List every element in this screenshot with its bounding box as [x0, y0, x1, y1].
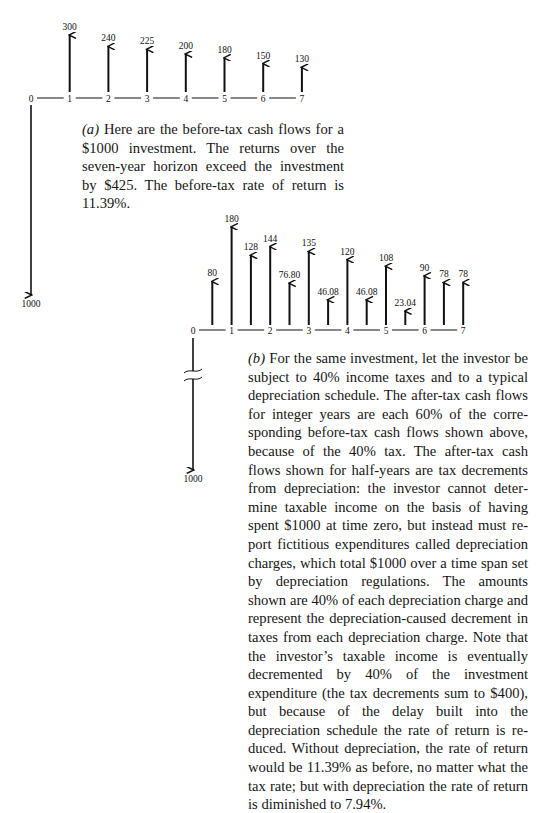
timeline-label: 7: [461, 326, 466, 336]
cash-flow-value: 46.08: [317, 287, 339, 297]
cash-flow-value: 240: [101, 33, 116, 43]
cash-flow-value: 90: [420, 263, 430, 273]
timeline-label: 2: [106, 94, 111, 104]
timeline-label: 3: [145, 94, 150, 104]
caption-b: (b) For the same investment, let the inv…: [248, 349, 528, 813]
caption-a-part-label: (a): [82, 121, 99, 137]
cash-flow-value: 78: [458, 269, 468, 279]
timeline-label: 0: [191, 326, 196, 336]
cash-flow-value: 150: [256, 51, 271, 61]
cash-flow-value: 80: [208, 268, 218, 278]
investment-value: 1000: [22, 299, 41, 309]
cash-flow-value: 128: [244, 242, 259, 252]
cash-flow-value: 300: [63, 22, 78, 32]
cash-flow-value: 144: [263, 234, 278, 244]
cash-flow-value: 135: [302, 238, 317, 248]
cash-flow-value: 225: [140, 36, 155, 46]
timeline-label: 2: [268, 326, 273, 336]
cash-flow-value: 108: [379, 253, 394, 263]
timeline-label: 0: [29, 94, 34, 104]
cash-flow-value: 78: [439, 269, 449, 279]
timeline-label: 6: [422, 326, 427, 336]
timeline-label: 5: [384, 326, 389, 336]
cash-flow-value: 23.04: [395, 298, 417, 308]
cash-flow-value: 180: [224, 214, 239, 224]
caption-a-text: Here are the before-tax cash flows for a…: [82, 121, 344, 211]
caption-b-part-label: (b): [248, 350, 265, 366]
timeline-label: 1: [229, 326, 234, 336]
cash-flow-value: 46.08: [356, 287, 378, 297]
timeline-label: 1: [67, 94, 72, 104]
cash-flow-value: 180: [217, 45, 232, 55]
cash-flow-value: 120: [340, 247, 355, 257]
cash-flow-value: 130: [295, 54, 310, 64]
timeline-label: 4: [183, 94, 188, 104]
investment-value: 1000: [184, 474, 203, 484]
timeline-label: 3: [306, 326, 311, 336]
timeline-label: 5: [222, 94, 227, 104]
caption-b-text: For the same investment, let the investo…: [248, 350, 528, 812]
cash-flow-value: 200: [179, 41, 194, 51]
caption-a: (a) Here are the before-tax cash flows f…: [82, 120, 344, 213]
timeline-label: 7: [300, 94, 305, 104]
cash-flow-value: 76.80: [279, 270, 301, 280]
timeline-label: 6: [261, 94, 266, 104]
timeline-label: 4: [345, 326, 350, 336]
